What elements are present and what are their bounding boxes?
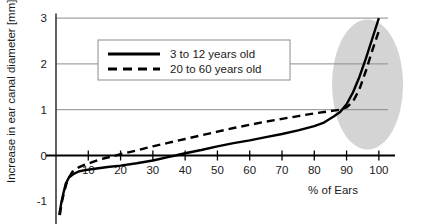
x-tick-label-30: 30: [146, 164, 159, 176]
chart-container: 102030405060708090100 -10123 Increase in…: [0, 0, 422, 224]
y-tick-label-0: 0: [41, 150, 47, 162]
y-tick-label-2: 2: [41, 58, 47, 70]
legend-label-0: 3 to 12 years old: [170, 48, 255, 60]
x-tick-label-90: 90: [340, 164, 353, 176]
x-tick-label-70: 70: [276, 164, 289, 176]
y-tick-label-1: 1: [41, 104, 47, 116]
legend-label-1: 20 to 60 years old: [170, 63, 261, 75]
x-tick-label-40: 40: [179, 164, 192, 176]
y-tick-label--1: -1: [37, 195, 47, 207]
x-axis-title: % of Ears: [308, 184, 358, 196]
y-axis-title: Increase in ear canal diameter [mm]: [5, 0, 17, 183]
x-tick-label-60: 60: [243, 164, 256, 176]
y-tick-label-3: 3: [41, 12, 47, 24]
x-tick-label-100: 100: [369, 164, 388, 176]
legend: 3 to 12 years old 20 to 60 years old: [98, 40, 290, 80]
x-tick-label-80: 80: [308, 164, 321, 176]
highlight-ellipse-0: [332, 19, 403, 149]
ear-canal-diameter-line-chart: 102030405060708090100 -10123 Increase in…: [0, 0, 422, 224]
x-tick-label-50: 50: [211, 164, 224, 176]
highlight-annotation-layer: [332, 19, 403, 149]
y-axis-tick-labels: -10123: [37, 12, 47, 207]
